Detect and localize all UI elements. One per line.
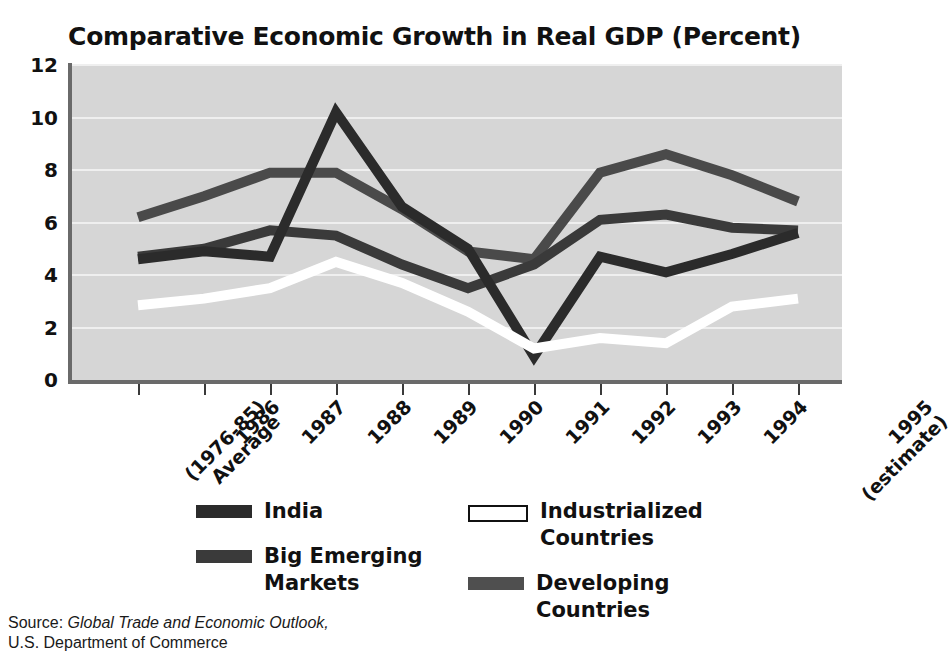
x-axis-tick-label: 1991 [561,396,613,448]
x-axis-tick [402,384,404,395]
x-axis-tick [138,384,140,395]
legend-swatch-developing-countries [468,577,524,590]
x-axis-tick-label: 1987 [297,396,349,448]
x-axis-tick-label: 1995 (estimate) [843,396,951,505]
y-axis-tick-label: 2 [14,316,58,340]
legend-swatch-big-emerging-markets [196,550,252,563]
x-axis-tick-label: 1994 [759,396,811,448]
x-axis-tick-label: 1992 [627,396,679,448]
legend-item-big-emerging-markets: Big Emerging Markets [196,543,456,597]
legend-column-left: India Big Emerging Markets [196,498,456,615]
source-agency: U.S. Department of Commerce [8,634,228,651]
legend-swatch-india [196,505,252,518]
source-publication: Global Trade and Economic Outlook, [68,614,329,631]
source-prefix: Source: [8,614,68,631]
y-axis-tick-label: 4 [14,263,58,287]
y-axis-tick-label: 0 [14,368,58,392]
x-axis-line [68,380,842,384]
legend-label-developing-countries: Developing Countries [536,570,669,624]
y-axis-tick-label: 12 [14,53,58,77]
y-axis-tick-label: 6 [14,211,58,235]
legend-label-india: India [264,498,323,525]
x-axis-tick-label: 1988 [363,396,415,448]
x-axis-tick [600,384,602,395]
x-axis-tick-label: 1990 [495,396,547,448]
chart-title: Comparative Economic Growth in Real GDP … [0,22,869,51]
x-axis-tick [666,384,668,395]
x-axis-tick [270,384,272,395]
legend-label-big-emerging-markets: Big Emerging Markets [264,543,423,597]
x-axis-tick [732,384,734,395]
source-note: Source: Global Trade and Economic Outloo… [8,613,329,653]
x-axis-tick [468,384,470,395]
x-axis-tick [336,384,338,395]
plot-area: 024681012 [72,65,842,380]
y-axis-tick-label: 8 [14,158,58,182]
legend-swatch-industrialized-countries [468,505,528,522]
legend-label-industrialized-countries: Industrialized Countries [540,498,703,552]
series-line-industrialized-countries [138,262,798,349]
legend-column-right: Industrialized Countries Developing Coun… [468,498,748,642]
legend-item-developing-countries: Developing Countries [468,570,748,624]
x-axis-tick [798,384,800,395]
x-axis-tick-label: 1989 [429,396,481,448]
legend-item-industrialized-countries: Industrialized Countries [468,498,748,552]
x-axis-tick [534,384,536,395]
legend-item-india: India [196,498,456,525]
x-axis-tick [204,384,206,395]
series-lines [72,65,842,380]
y-axis-tick-label: 10 [14,106,58,130]
x-axis-tick-label: 1993 [693,396,745,448]
